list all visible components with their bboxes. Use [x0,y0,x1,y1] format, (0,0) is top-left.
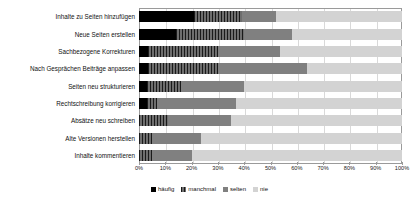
bar-segment-nie [201,133,402,144]
legend-swatch-icon [181,187,186,192]
bar-segment-manchmal [139,150,152,161]
bar-segment-häufig [139,81,147,92]
x-tick-label: 40% [239,165,250,171]
category-label: Rechtschreibung korrigieren [0,98,135,109]
legend-item[interactable]: selten [223,186,246,192]
stacked-bar-chart: Inhalte zu Seiten hinzufügenNeue Seiten … [0,0,419,208]
bar-segment-häufig [139,98,147,109]
bar-row [139,63,402,74]
category-label: Seiten neu strukturieren [0,81,135,92]
bar-segment-selten [244,29,291,40]
legend-item[interactable]: nie [253,186,268,192]
bar-segment-manchmal [148,46,218,57]
x-tick-label: 80% [344,165,355,171]
category-label: Inhalte zu Seiten hinzufügen [0,11,135,22]
bar-segment-nie [292,29,402,40]
legend-item[interactable]: häufig [151,186,174,192]
legend-swatch-icon [151,187,156,192]
x-tick-label: 60% [291,165,302,171]
category-label: Inhalte kommentieren [0,150,135,161]
bar-row [139,115,402,126]
x-tick-label: 0% [135,165,143,171]
bar-segment-nie [307,63,402,74]
bar-rows [139,8,402,164]
bar-row [139,150,402,161]
legend-label: nie [260,186,268,192]
x-tick-label: 20% [186,165,197,171]
legend-swatch-icon [253,187,258,192]
bar-segment-manchmal [194,11,241,22]
bar-segment-selten [157,98,236,109]
legend-item[interactable]: manchmal [181,186,216,192]
bar-segment-selten [181,81,244,92]
x-tick-label: 30% [212,165,223,171]
bar-segment-manchmal [148,63,218,74]
bar-segment-nie [192,150,402,161]
bar-row [139,11,402,22]
x-tick-label: 70% [317,165,328,171]
category-label: Sachbezogene Korrekturen [0,46,135,57]
x-tick-label: 50% [265,165,276,171]
category-label: Nach Gesprächen Beiträge anpassen [0,63,135,74]
bar-segment-häufig [139,11,194,22]
category-label: Absätze neu schreiben [0,115,135,126]
bar-segment-nie [231,115,402,126]
bar-row [139,133,402,144]
bar-row [139,81,402,92]
bar-segment-nie [276,11,402,22]
legend-swatch-icon [223,187,228,192]
bar-segment-selten [218,63,307,74]
bar-segment-manchmal [147,98,158,109]
bar-segment-selten [218,46,280,57]
bar-segment-selten [242,11,276,22]
bar-segment-selten [152,133,201,144]
bar-row [139,98,402,109]
category-axis-labels: Inhalte zu Seiten hinzufügenNeue Seiten … [0,8,135,164]
bar-segment-häufig [139,29,176,40]
bar-segment-nie [244,81,402,92]
bar-segment-manchmal [139,115,168,126]
bar-segment-selten [152,150,191,161]
legend-label: häufig [158,186,174,192]
legend-label: manchmal [188,186,216,192]
bar-segment-häufig [139,63,148,74]
bar-segment-manchmal [147,81,181,92]
bar-segment-häufig [139,46,148,57]
bar-segment-selten [168,115,231,126]
bar-row [139,29,402,40]
category-label: Alte Versionen herstellen [0,133,135,144]
category-label: Neue Seiten erstellen [0,29,135,40]
chart-legend: häufigmanchmalseltennie [0,186,419,192]
legend-label: selten [230,186,246,192]
x-axis-ticks: 0%10%20%30%40%50%60%70%80%90%100% [139,165,402,177]
bar-segment-manchmal [139,133,152,144]
x-tick-label: 90% [370,165,381,171]
x-tick-label: 100% [395,165,409,171]
bar-row [139,46,402,57]
bar-segment-nie [280,46,402,57]
x-tick-label: 10% [160,165,171,171]
bar-segment-nie [236,98,402,109]
bar-segment-manchmal [176,29,244,40]
